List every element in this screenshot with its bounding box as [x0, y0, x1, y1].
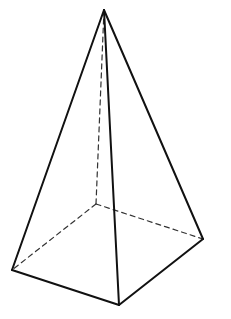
- hidden-edges: [12, 10, 203, 270]
- hidden-edge-back_hidden-front_right: [96, 204, 203, 239]
- hidden-edge-apex-back_hidden: [96, 10, 104, 204]
- edge-apex-front_bottom: [104, 10, 119, 305]
- edge-apex-front_right: [104, 10, 203, 239]
- edge-apex-front_left: [12, 10, 104, 270]
- pyramid-diagram: [0, 0, 231, 319]
- pyramid-svg: [0, 0, 231, 319]
- edge-front_bottom-front_right: [119, 239, 203, 305]
- visible-edges: [12, 10, 203, 305]
- edge-front_left-front_bottom: [12, 270, 119, 305]
